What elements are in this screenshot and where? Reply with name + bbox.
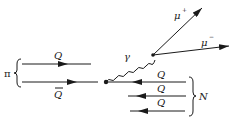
mu-plus-charge: + [182,6,187,13]
mu-minus-label: μ [201,37,208,48]
photon-line [106,60,155,82]
nucleon-brace [189,77,196,116]
antiquark-label: Q [54,89,62,100]
quark-label: Q [54,50,62,61]
photon-label: γ [124,51,130,62]
mu-plus-label: μ [174,10,181,21]
pion-label: π [4,68,11,79]
mu-minus-line [153,46,229,55]
nucleon-quark-label-1: Q [157,69,165,80]
mu-minus-charge: − [209,33,214,40]
nucleon-label: N [198,91,209,102]
feynman-diagram: π Q Q γ μ + μ − Q Q Q N [0,0,237,126]
nucleon-quark-label-2: Q [157,83,165,94]
pion-brace [14,59,21,87]
nucleon-quark-label-3: Q [157,97,165,108]
